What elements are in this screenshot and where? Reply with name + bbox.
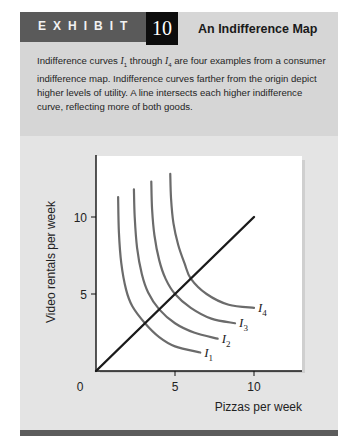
bottom-bar xyxy=(20,430,338,436)
y-tick-label: 10 xyxy=(74,211,88,225)
y-tick-label: 5 xyxy=(80,288,87,302)
y-axis-label: Video rentals per week xyxy=(44,200,58,323)
indifference-map-chart: 5100510Pizzas per weekVideo rentals per … xyxy=(0,0,352,448)
plot-area xyxy=(96,156,302,371)
x-tick-label: 0 xyxy=(77,380,84,394)
x-axis-label: Pizzas per week xyxy=(215,400,303,414)
x-tick-label: 10 xyxy=(247,380,261,394)
x-tick-label: 5 xyxy=(172,380,179,394)
